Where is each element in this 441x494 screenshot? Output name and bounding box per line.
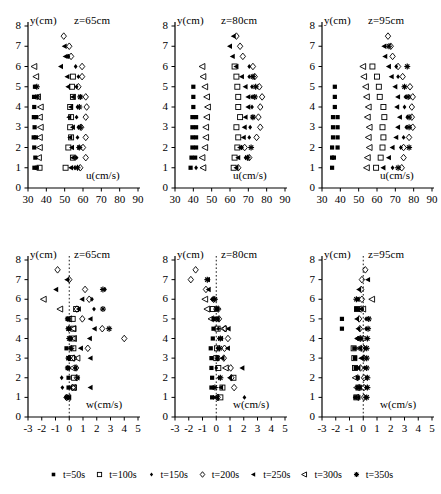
legend-label: t=250s bbox=[263, 469, 290, 480]
x-axis-label: w(cm/s) bbox=[86, 398, 122, 410]
y-tick-label: 1 bbox=[7, 161, 21, 173]
chart-panel-u-z80: y(cm) z=80cm 01234567830405060708090u(cm… bbox=[147, 0, 294, 230]
y-tick-label: 0 bbox=[7, 181, 21, 193]
y-tick-label: 0 bbox=[154, 410, 168, 422]
data-layer bbox=[188, 33, 264, 171]
data-layer bbox=[31, 33, 89, 171]
y-tick-label: 6 bbox=[7, 292, 21, 304]
panel-title: z=80cm bbox=[221, 14, 257, 26]
legend-item: t=300s bbox=[299, 469, 341, 480]
y-axis-label: y(cm) bbox=[177, 248, 204, 260]
series-t300s bbox=[360, 64, 372, 171]
y-axis-label: y(cm) bbox=[30, 248, 57, 260]
x-tick-label: 40 bbox=[183, 193, 203, 205]
y-tick-label: 1 bbox=[154, 161, 168, 173]
figure-root: y(cm) z=65cm 01234567830405060708090u(cm… bbox=[0, 0, 441, 494]
legend-marker-open-square-icon bbox=[94, 469, 105, 480]
legend-label: t=150s bbox=[161, 469, 188, 480]
x-tick-label: 5 bbox=[275, 422, 295, 434]
series-t200s bbox=[61, 33, 89, 171]
y-axis-label: y(cm) bbox=[324, 248, 351, 260]
legend-marker-open-triangle-left-icon bbox=[299, 469, 310, 480]
y-tick-label: 7 bbox=[301, 39, 315, 51]
x-tick-label: 60 bbox=[367, 193, 387, 205]
y-tick-label: 8 bbox=[301, 253, 315, 265]
y-tick-label: 5 bbox=[301, 80, 315, 92]
x-tick-label: 80 bbox=[257, 193, 277, 205]
legend-marker-filled-dot-icon bbox=[146, 469, 157, 480]
y-tick-label: 5 bbox=[7, 312, 21, 324]
legend-marker-filled-square-icon bbox=[48, 469, 59, 480]
y-axis-label: y(cm) bbox=[324, 14, 351, 26]
y-tick-label: 7 bbox=[7, 39, 21, 51]
x-tick-label: 30 bbox=[312, 193, 332, 205]
y-tick-label: 1 bbox=[301, 390, 315, 402]
x-axis-label: u(cm/s) bbox=[86, 169, 120, 181]
x-tick-label: 50 bbox=[202, 193, 222, 205]
y-tick-label: 1 bbox=[301, 161, 315, 173]
y-tick-label: 2 bbox=[7, 371, 21, 383]
legend-label: t=50s bbox=[63, 469, 85, 480]
legend-marker-open-diamond-icon bbox=[197, 469, 208, 480]
y-tick-label: 3 bbox=[301, 120, 315, 132]
y-tick-label: 3 bbox=[301, 351, 315, 363]
x-tick-label: 90 bbox=[422, 193, 441, 205]
y-tick-label: 4 bbox=[154, 100, 168, 112]
y-tick-label: 8 bbox=[301, 19, 315, 31]
y-tick-label: 8 bbox=[7, 19, 21, 31]
legend-item: t=50s bbox=[48, 469, 85, 480]
panel-title: z=95cm bbox=[368, 248, 404, 260]
x-tick-label: 40 bbox=[330, 193, 350, 205]
data-layer bbox=[188, 267, 246, 401]
y-tick-label: 7 bbox=[154, 273, 168, 285]
y-tick-label: 0 bbox=[301, 181, 315, 193]
chart-panel-w-z65: y(cm) z=65cm 012345678-3-2-1012345w(cm/s… bbox=[0, 234, 147, 459]
panel-title: z=80cm bbox=[221, 248, 257, 260]
y-tick-label: 5 bbox=[154, 312, 168, 324]
y-tick-label: 5 bbox=[301, 312, 315, 324]
legend-item: t=250s bbox=[248, 469, 290, 480]
y-tick-label: 1 bbox=[7, 390, 21, 402]
y-tick-label: 6 bbox=[7, 60, 21, 72]
series-t350s bbox=[64, 286, 112, 400]
x-tick-label: 50 bbox=[349, 193, 369, 205]
x-axis-label: u(cm/s) bbox=[233, 169, 267, 181]
y-tick-label: 4 bbox=[301, 100, 315, 112]
y-tick-label: 5 bbox=[154, 80, 168, 92]
series-t150s bbox=[60, 287, 107, 400]
series-t200s bbox=[385, 33, 415, 171]
x-tick-label: 70 bbox=[238, 193, 258, 205]
x-tick-label: 90 bbox=[128, 193, 148, 205]
x-tick-label: 80 bbox=[110, 193, 130, 205]
y-tick-label: 6 bbox=[301, 60, 315, 72]
series-t300s bbox=[199, 64, 210, 171]
x-tick-label: 70 bbox=[91, 193, 111, 205]
legend-label: t=100s bbox=[109, 469, 136, 480]
chart-panel-w-z80: y(cm) z=80cm 012345678-3-2-1012345w(cm/s… bbox=[147, 234, 294, 459]
y-tick-label: 2 bbox=[154, 141, 168, 153]
y-tick-label: 2 bbox=[154, 371, 168, 383]
series-t150s bbox=[66, 54, 82, 170]
y-tick-label: 0 bbox=[301, 410, 315, 422]
x-tick-label: 50 bbox=[55, 193, 75, 205]
x-tick-label: 30 bbox=[165, 193, 185, 205]
y-tick-label: 6 bbox=[154, 292, 168, 304]
series-t50s bbox=[188, 85, 198, 170]
x-tick-label: 60 bbox=[73, 193, 93, 205]
legend-label: t=200s bbox=[212, 469, 239, 480]
data-layer bbox=[40, 267, 127, 401]
y-axis-label: y(cm) bbox=[177, 14, 204, 26]
y-tick-label: 7 bbox=[7, 273, 21, 285]
series-t250s bbox=[380, 44, 402, 171]
series-t50s bbox=[330, 85, 340, 170]
y-tick-label: 8 bbox=[154, 253, 168, 265]
y-tick-label: 8 bbox=[7, 253, 21, 265]
x-tick-label: 30 bbox=[18, 193, 38, 205]
series-t100s bbox=[231, 64, 242, 170]
y-tick-label: 4 bbox=[7, 100, 21, 112]
y-tick-label: 1 bbox=[154, 390, 168, 402]
series-t350s bbox=[204, 277, 223, 391]
legend-item: t=150s bbox=[146, 469, 188, 480]
legend-label: t=350s bbox=[366, 469, 393, 480]
x-axis-label: w(cm/s) bbox=[233, 398, 269, 410]
